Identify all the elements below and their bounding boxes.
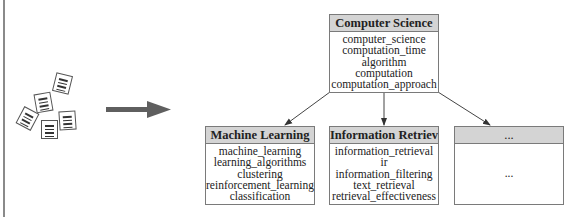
topic-terms: computer_science computation_time algori… bbox=[330, 32, 438, 90]
term: ... bbox=[455, 168, 563, 179]
topic-terms: ... bbox=[455, 144, 563, 179]
term: computation_approach bbox=[330, 79, 438, 90]
topic-terms: machine_learning learning_algorithms clu… bbox=[206, 144, 314, 202]
topic-title: ... bbox=[455, 127, 563, 144]
topic-title: Computer Science bbox=[330, 15, 438, 32]
topic-box-information-retrieval: Information Retrieval information_retrie… bbox=[329, 126, 439, 205]
topic-box-root: Computer Science computer_science comput… bbox=[329, 14, 439, 93]
term: ir bbox=[330, 157, 438, 168]
topic-terms: information_retrieval ir information_fil… bbox=[330, 144, 438, 202]
term: classification bbox=[206, 191, 314, 202]
right-arrow-icon bbox=[106, 101, 171, 118]
topic-title: Information Retrieval bbox=[330, 127, 438, 144]
topic-title: Machine Learning bbox=[206, 127, 314, 144]
topic-box-machine-learning: Machine Learning machine_learning learni… bbox=[205, 126, 315, 205]
term: retrieval_effectiveness bbox=[330, 191, 438, 202]
term: computation_time bbox=[330, 45, 438, 56]
edge-root-to-other bbox=[438, 92, 490, 125]
term: learning_algorithms bbox=[206, 157, 314, 168]
edge-root-to-machine-learning bbox=[285, 92, 330, 125]
topic-box-other: ... ... bbox=[454, 126, 564, 205]
